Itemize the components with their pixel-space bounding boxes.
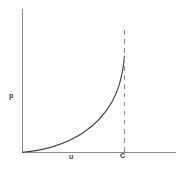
chart-canvas bbox=[0, 0, 184, 170]
chart-figure: p u C bbox=[0, 0, 184, 170]
curve-p-of-u bbox=[23, 56, 125, 152]
x-axis-tick-label-c: C bbox=[120, 152, 125, 160]
y-axis-label: p bbox=[9, 92, 13, 100]
x-axis-label: u bbox=[69, 153, 73, 161]
